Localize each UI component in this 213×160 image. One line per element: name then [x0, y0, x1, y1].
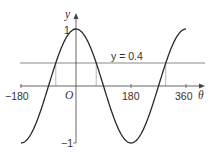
y-axis-arrow-icon: [74, 13, 79, 19]
y-axis-label: y: [64, 8, 71, 21]
x-axis-label: θ: [198, 89, 204, 101]
line-label: y = 0.4: [111, 50, 143, 62]
x-tick-label-360: 360: [175, 90, 193, 102]
x-axis-arrow-icon: [199, 84, 205, 89]
x-tick-label-180: 180: [122, 90, 140, 102]
y-tick-label-1: 1: [64, 24, 70, 36]
y-tick-label-neg1: −1: [61, 137, 73, 149]
x-tick-label-neg180: −180: [5, 90, 29, 102]
origin-label: O: [65, 89, 74, 101]
cosine-graph: y 1 −1 O −180 180 360 θ y = 0.4: [0, 0, 213, 160]
